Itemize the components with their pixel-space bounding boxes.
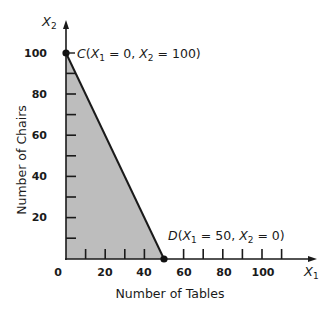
chart: 100 80 60 40 20 0 20 40 60 80 100 X2 X1 … [0, 0, 331, 311]
x-tick-label: 0 [54, 266, 62, 279]
x-tick-label: 80 [216, 266, 232, 279]
y-axis-symbol: X2 [41, 14, 57, 31]
y-tick-label: 40 [32, 170, 48, 183]
y-tick-label: 80 [32, 88, 48, 101]
point-d [160, 255, 167, 262]
point-c-label: C(X1 = 0, X2 = 100) [77, 46, 201, 63]
y-tick-label: 100 [24, 47, 47, 60]
y-tick-label: 60 [32, 129, 48, 142]
point-d-label: D(X1 = 50, X2 = 0) [168, 228, 285, 245]
x-tick-label: 20 [97, 266, 113, 279]
x-axis-title: Number of Tables [115, 286, 224, 301]
x-axis-symbol: X1 [303, 264, 319, 281]
y-axis-arrow-icon [63, 20, 69, 29]
x-axis-arrow-icon [308, 256, 317, 262]
y-tick-label: 20 [32, 211, 48, 224]
x-tick-label: 100 [252, 266, 275, 279]
y-axis-title: Number of Chairs [14, 105, 29, 215]
x-tick-label: 60 [176, 266, 192, 279]
x-tick-label: 40 [136, 266, 152, 279]
